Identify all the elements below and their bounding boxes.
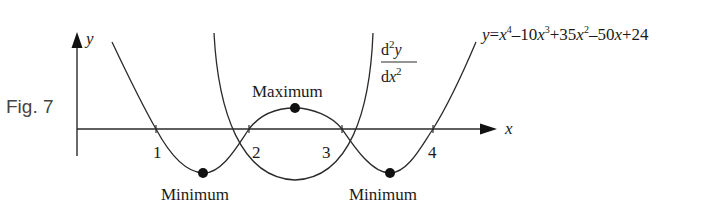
minimum-label-right: Minimum (349, 185, 417, 204)
figure-label: Fig. 7 (6, 96, 54, 117)
y-axis-arrow-icon (72, 32, 83, 48)
minimum-point-right (385, 168, 395, 178)
minimum-label-left: Minimum (161, 185, 229, 204)
quartic-equation-label: y=x4–10x3+35x2–50x+24 (480, 24, 649, 44)
tick-label-2: 2 (252, 143, 261, 162)
maximum-label: Maximum (252, 82, 323, 101)
x-axis-label: x (504, 119, 513, 138)
second-derivative-label: d2y dx2 (381, 38, 417, 85)
minimum-point-left (198, 168, 208, 178)
x-axis-arrow-icon (480, 124, 497, 135)
tick-label-4: 4 (428, 143, 437, 162)
tick-label-1: 1 (153, 143, 162, 162)
svg-text:dx2: dx2 (381, 65, 402, 85)
maximum-point (290, 103, 300, 113)
figure-7-graph: Fig. 7 y x 1 2 3 4 Minimum Maximum Minim… (0, 0, 709, 210)
svg-text:d2y: d2y (381, 38, 403, 59)
tick-label-3: 3 (322, 143, 331, 162)
y-axis-label: y (84, 29, 94, 48)
